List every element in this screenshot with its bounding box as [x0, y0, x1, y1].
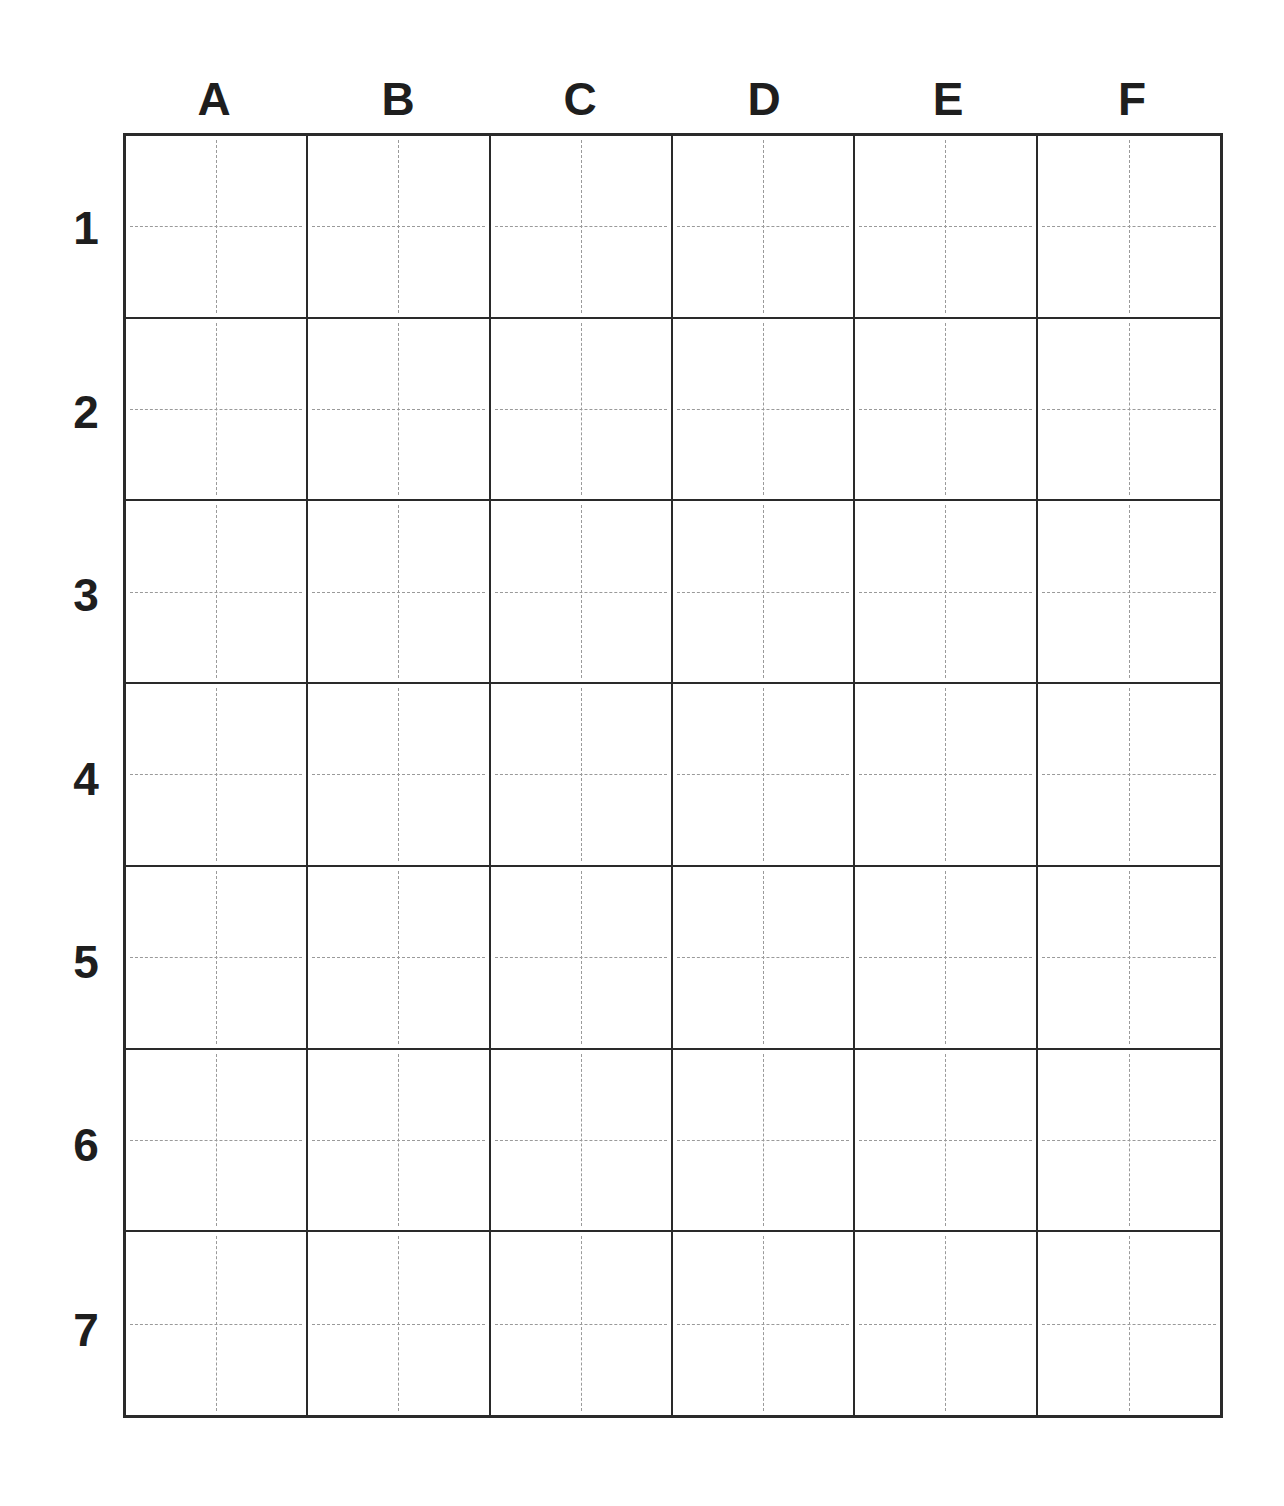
- row-label-3: 3: [56, 565, 116, 625]
- cell-b3[interactable]: [308, 501, 490, 684]
- cell-e1[interactable]: [855, 136, 1037, 319]
- cell-a2[interactable]: [126, 319, 308, 502]
- cell-f2[interactable]: [1038, 319, 1220, 502]
- cell-a7[interactable]: [126, 1232, 308, 1415]
- cell-e6[interactable]: [855, 1050, 1037, 1233]
- cell-e4[interactable]: [855, 684, 1037, 867]
- cell-b7[interactable]: [308, 1232, 490, 1415]
- cell-d1[interactable]: [673, 136, 855, 319]
- cell-c4[interactable]: [491, 684, 673, 867]
- cell-c5[interactable]: [491, 867, 673, 1050]
- row-label-7: 7: [56, 1300, 116, 1360]
- cell-d3[interactable]: [673, 501, 855, 684]
- cell-c3[interactable]: [491, 501, 673, 684]
- row-label-4: 4: [56, 749, 116, 809]
- cell-c1[interactable]: [491, 136, 673, 319]
- column-label-e: E: [918, 72, 978, 126]
- cell-c7[interactable]: [491, 1232, 673, 1415]
- cell-f4[interactable]: [1038, 684, 1220, 867]
- cell-d6[interactable]: [673, 1050, 855, 1233]
- cell-e5[interactable]: [855, 867, 1037, 1050]
- column-label-d: D: [734, 72, 794, 126]
- cell-b5[interactable]: [308, 867, 490, 1050]
- cell-b2[interactable]: [308, 319, 490, 502]
- cell-c6[interactable]: [491, 1050, 673, 1233]
- cell-a5[interactable]: [126, 867, 308, 1050]
- cell-a4[interactable]: [126, 684, 308, 867]
- cell-f1[interactable]: [1038, 136, 1220, 319]
- cell-d5[interactable]: [673, 867, 855, 1050]
- row-label-6: 6: [56, 1115, 116, 1175]
- row-label-2: 2: [56, 382, 116, 442]
- row-label-5: 5: [56, 932, 116, 992]
- cell-e2[interactable]: [855, 319, 1037, 502]
- column-label-c: C: [550, 72, 610, 126]
- cell-e7[interactable]: [855, 1232, 1037, 1415]
- column-label-a: A: [184, 72, 244, 126]
- cell-f6[interactable]: [1038, 1050, 1220, 1233]
- cell-b6[interactable]: [308, 1050, 490, 1233]
- cell-d2[interactable]: [673, 319, 855, 502]
- cell-f7[interactable]: [1038, 1232, 1220, 1415]
- cell-d7[interactable]: [673, 1232, 855, 1415]
- cell-e3[interactable]: [855, 501, 1037, 684]
- column-label-f: F: [1102, 72, 1162, 126]
- game-board-grid: [123, 133, 1223, 1418]
- row-label-1: 1: [56, 198, 116, 258]
- cell-b4[interactable]: [308, 684, 490, 867]
- cell-b1[interactable]: [308, 136, 490, 319]
- cell-a3[interactable]: [126, 501, 308, 684]
- cell-c2[interactable]: [491, 319, 673, 502]
- cell-f3[interactable]: [1038, 501, 1220, 684]
- column-label-b: B: [368, 72, 428, 126]
- cell-a6[interactable]: [126, 1050, 308, 1233]
- cell-d4[interactable]: [673, 684, 855, 867]
- cell-a1[interactable]: [126, 136, 308, 319]
- cell-f5[interactable]: [1038, 867, 1220, 1050]
